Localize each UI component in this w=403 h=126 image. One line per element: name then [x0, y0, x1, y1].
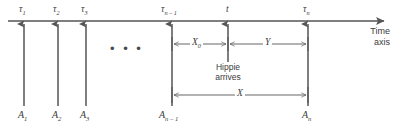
ellipsis-dots: • • • — [110, 42, 143, 55]
hippie-arrives-line2: arrives — [204, 72, 252, 82]
tick-label-tau-3: τ3 — [81, 5, 88, 15]
dimension-label-x: X — [235, 89, 245, 99]
tick-label-tau-1: τ1 — [19, 5, 26, 15]
tick-label-tau-2: τ2 — [53, 5, 60, 15]
time-axis-diagram: τ1 τ2 τ3 τn – 1 t τn A1 A2 A3 An – 1 An … — [0, 0, 403, 126]
tick-label-tau-n-minus-1: τn – 1 — [161, 5, 177, 15]
amplitude-label-a-3: A3 — [80, 110, 89, 120]
diagram-canvas — [0, 0, 403, 126]
time-axis-caption-line1: Time — [340, 26, 390, 37]
tick-label-tau-n: τn — [303, 5, 310, 15]
amplitude-label-a-n-minus-1: An – 1 — [159, 110, 178, 120]
amplitude-label-a-n: An — [302, 110, 311, 120]
amplitude-label-a-2: A2 — [52, 110, 61, 120]
amplitude-label-a-1: A1 — [18, 110, 27, 120]
hippie-arrives-line1: Hippie — [204, 62, 252, 72]
dimension-label-x0: X0 — [190, 38, 203, 48]
time-axis-caption: Time axis — [340, 26, 390, 47]
time-axis-caption-line2: axis — [340, 37, 390, 48]
dimension-label-y: Y — [263, 38, 272, 48]
hippie-arrives-annotation: Hippie arrives — [204, 62, 252, 82]
tick-label-t: t — [226, 5, 229, 15]
